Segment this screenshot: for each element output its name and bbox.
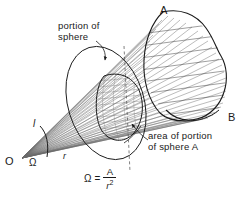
leader-portion-of-sphere	[96, 41, 105, 60]
formula-fraction: A r2	[103, 167, 116, 190]
far-surface	[140, 11, 232, 130]
label-point-b: B	[228, 111, 236, 123]
formula-numerator: A	[104, 167, 116, 177]
label-portion-of-sphere-line2: sphere	[58, 32, 100, 43]
label-point-a: A	[160, 4, 168, 16]
diagram-canvas	[0, 0, 247, 199]
label-area-of-portion-line2: of sphere A	[148, 142, 212, 153]
solid-angle-diagram: portion of sphere area of portion of sph…	[0, 0, 247, 199]
sphere-outline	[53, 36, 160, 169]
formula-denominator: r2	[103, 178, 116, 190]
label-length-l: l	[33, 118, 35, 129]
formula-equals: =	[94, 173, 100, 184]
label-radius-r: r	[63, 151, 66, 161]
label-origin-o: O	[5, 155, 14, 167]
formula-lhs: Ω	[84, 173, 91, 184]
label-portion-of-sphere: portion of sphere	[58, 21, 100, 42]
label-solid-angle-omega: Ω	[29, 157, 37, 168]
label-area-of-portion: area of portion of sphere A	[148, 131, 212, 152]
formula-denominator-exponent: 2	[110, 179, 114, 186]
formula-solid-angle: Ω = A r2	[84, 167, 116, 190]
